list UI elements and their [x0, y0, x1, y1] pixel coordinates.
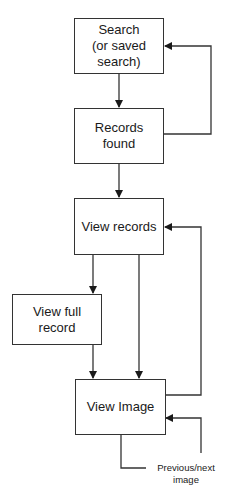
node-view-full-record: View full record — [12, 294, 102, 345]
previous-next-label-line-1: Previous/next — [152, 462, 220, 474]
node-search: Search (or saved search) — [74, 18, 164, 74]
node-records-found-line-1: Records — [95, 120, 143, 136]
node-view-full-record-line-1: View full — [33, 304, 81, 320]
node-view-records-line-1: View records — [82, 219, 157, 235]
node-records-found-line-2: found — [95, 136, 143, 152]
edge-records-found-to-search — [164, 46, 211, 134]
node-view-image-line-1: View Image — [87, 399, 155, 415]
node-view-full-record-line-2: record — [33, 320, 81, 336]
node-view-image: View Image — [75, 379, 166, 435]
node-search-line-2: (or saved — [92, 38, 146, 54]
edge-view-image-to-view-records — [165, 227, 201, 395]
previous-next-label-line-2: image — [152, 474, 220, 486]
edge-view-image-previous-next-out — [121, 434, 146, 468]
node-search-line-3: search) — [92, 54, 146, 70]
edge-view-image-previous-next-in — [166, 418, 201, 453]
previous-next-image-label: Previous/next image — [152, 462, 220, 486]
node-view-records: View records — [74, 198, 164, 255]
node-search-line-1: Search — [92, 22, 146, 38]
node-records-found: Records found — [74, 108, 164, 164]
